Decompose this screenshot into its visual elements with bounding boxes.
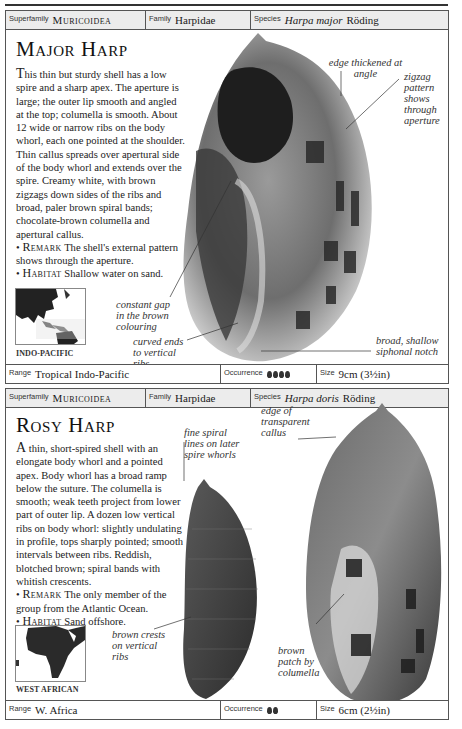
species-cell: Species Harpa major Röding	[251, 11, 448, 29]
habitat-text: Shallow water on sand.	[64, 268, 163, 279]
superfamily-value: Muricoidea	[53, 14, 112, 26]
range-map-indo-pacific	[15, 288, 86, 345]
entry-description: This thin but sturdy shell has a low spi…	[16, 67, 186, 281]
superfamily-label: Superfamily	[9, 392, 49, 401]
occurrence-rating	[267, 371, 290, 378]
occurrence-drop-icon	[267, 371, 272, 378]
entry-major-harp: Superfamily Muricoidea Family Harpidae S…	[5, 10, 449, 384]
entry-footer: Range W. Africa Occurrence Size 6cm (2½i…	[6, 700, 448, 719]
occurrence-rating	[267, 707, 278, 714]
entry-rosy-harp: Superfamily Muricoidea Family Harpidae S…	[5, 388, 449, 720]
occurrence-cell: Occurrence	[221, 365, 317, 383]
size-label: Size	[320, 368, 335, 377]
drop-cap: T	[16, 66, 25, 81]
species-name: Harpa doris	[285, 392, 339, 404]
shell-body	[183, 33, 371, 361]
annotation-brown-patch: brown patch by columella	[278, 645, 328, 678]
family-value: Harpidae	[175, 392, 215, 404]
range-map-west-african	[15, 625, 86, 682]
range-cell: Range Tropical Indo-Pacific	[6, 365, 221, 383]
annotation-brown-crests: brown crests on vertical ribs	[112, 629, 172, 662]
bullet-icon: •	[16, 242, 20, 253]
occurrence-drop-icon	[267, 707, 272, 714]
range-label: Range	[9, 704, 31, 713]
species-label: Species	[254, 392, 281, 401]
classification-header: Superfamily Muricoidea Family Harpidae S…	[6, 11, 448, 30]
entry-footer: Range Tropical Indo-Pacific Occurrence S…	[6, 364, 448, 383]
occurrence-drop-icon	[273, 371, 278, 378]
superfamily-cell: Superfamily Muricoidea	[6, 11, 146, 29]
annotation-constant-gap: constant gap in the brown colouring	[116, 299, 176, 332]
species-author: Röding	[346, 14, 378, 26]
superfamily-value: Muricoidea	[53, 392, 112, 404]
superfamily-label: Superfamily	[9, 14, 49, 23]
size-cell: Size 9cm (3½in)	[317, 365, 448, 383]
range-value: Tropical Indo-Pacific	[35, 368, 129, 380]
map-label: INDO-PACIFIC	[16, 349, 74, 358]
superfamily-cell: Superfamily Muricoidea	[6, 389, 146, 407]
remark-label: Remark	[22, 240, 61, 254]
species-author: Röding	[343, 392, 375, 404]
size-value: 9cm (3½in)	[339, 368, 390, 380]
annotation-fine-spiral-lines: fine spiral lines on later spire whorls	[184, 427, 248, 460]
spire-dark-patch	[218, 67, 293, 163]
family-value: Harpidae	[175, 14, 215, 26]
habitat-label: Habitat	[22, 266, 61, 280]
annotation-transparent-callus: edge of transparent callus	[261, 405, 311, 438]
occurrence-label: Occurrence	[224, 368, 263, 377]
range-value: W. Africa	[35, 704, 77, 716]
size-value: 6cm (2½in)	[339, 704, 390, 716]
occurrence-cell: Occurrence	[221, 701, 317, 719]
entry-description: A thin, short-spired shell with an elong…	[16, 441, 188, 628]
occurrence-drop-icon	[279, 371, 284, 378]
entry-title: Major Harp	[16, 37, 128, 62]
size-cell: Size 6cm (2½in)	[317, 701, 448, 719]
family-label: Family	[149, 392, 171, 401]
range-cell: Range W. Africa	[6, 701, 221, 719]
top-rule	[5, 4, 448, 6]
entry-title: Rosy Harp	[16, 413, 115, 438]
range-label: Range	[9, 368, 31, 377]
description-text: his thin but sturdy shell has a low spir…	[16, 69, 185, 240]
size-label: Size	[320, 704, 335, 713]
family-cell: Family Harpidae	[146, 389, 251, 407]
annotation-zigzag-pattern: zigzag pattern shows through aperture	[404, 71, 446, 126]
species-name: Harpa major	[285, 14, 343, 26]
family-cell: Family Harpidae	[146, 11, 251, 29]
map-label: WEST AFRICAN	[16, 685, 79, 694]
annotation-edge-thickened: edge thickened at angle	[328, 57, 403, 79]
occurrence-drop-icon	[285, 371, 290, 378]
small-shell	[183, 479, 257, 699]
classification-header: Superfamily Muricoidea Family Harpidae S…	[6, 389, 448, 408]
family-label: Family	[149, 14, 171, 23]
remark-label: Remark	[22, 587, 61, 601]
description-text: thin, short-spired shell with an elongat…	[16, 443, 183, 587]
bullet-icon: •	[16, 268, 20, 279]
drop-cap: A	[16, 440, 26, 455]
annotation-siphonal-notch: broad, shallow siphonal notch	[376, 335, 446, 357]
occurrence-drop-icon	[273, 707, 278, 714]
species-label: Species	[254, 14, 281, 23]
occurrence-label: Occurrence	[224, 704, 263, 713]
bullet-icon: •	[16, 589, 20, 600]
